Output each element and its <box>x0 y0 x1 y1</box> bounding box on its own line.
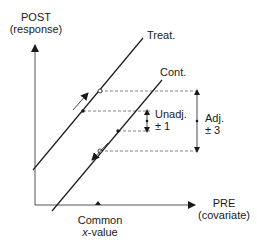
adjusted-difference-arrow <box>196 92 199 150</box>
treatment-line <box>33 38 143 170</box>
x-axis-label: PRE (covariate) <box>195 197 253 221</box>
common-x-value-label: Common x-value <box>70 214 130 238</box>
y-axis-label: POST (response) <box>8 11 64 35</box>
control-mean-point <box>116 129 119 132</box>
common-x-tick <box>95 201 101 205</box>
unadjusted-difference-arrow <box>146 112 149 130</box>
unadjusted-label: Unadj. ± 1 <box>155 108 187 132</box>
treatment-adjusted-point <box>98 89 102 93</box>
control-label: Cont. <box>160 66 186 78</box>
control-shift-arrow <box>92 143 108 160</box>
treatment-mean-point <box>81 109 84 112</box>
adjusted-label: Adj. ± 3 <box>205 112 224 136</box>
control-line <box>52 80 162 211</box>
treatment-label: Treat. <box>147 29 175 41</box>
